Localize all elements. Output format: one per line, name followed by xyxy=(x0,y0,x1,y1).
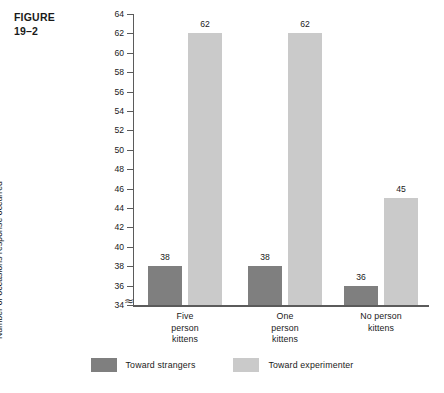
y-axis-title: Number of occasions response occurred xyxy=(0,160,4,360)
bar-value-label: 38 xyxy=(148,252,182,262)
legend-label: Toward strangers xyxy=(126,360,196,370)
x-category-label-line: person xyxy=(235,323,335,335)
bar xyxy=(344,286,378,305)
bar-value-label: 62 xyxy=(188,19,222,29)
x-category-label-line: One xyxy=(235,311,335,323)
y-tick-mark xyxy=(127,286,133,287)
y-tick-mark xyxy=(127,92,133,93)
y-tick-label: 52 xyxy=(114,125,124,135)
x-category-label: No personkittens xyxy=(331,311,431,334)
y-tick-label: 48 xyxy=(114,164,124,174)
x-category-label: Onepersonkittens xyxy=(235,311,335,346)
y-tick-mark xyxy=(127,130,133,131)
y-axis-tick-labels: 34363840424446485052545658606264 xyxy=(104,14,124,306)
bar xyxy=(288,33,322,305)
y-tick-label: 56 xyxy=(114,87,124,97)
y-tick-label: 50 xyxy=(114,145,124,155)
y-tick-label: 36 xyxy=(114,281,124,291)
y-tick-label: 62 xyxy=(114,28,124,38)
y-tick-label: 46 xyxy=(114,184,124,194)
bar xyxy=(384,198,418,305)
bar-value-label: 36 xyxy=(344,272,378,282)
y-tick-mark xyxy=(127,266,133,267)
legend-label: Toward experimenter xyxy=(268,360,353,370)
y-tick-mark xyxy=(127,14,133,15)
legend-swatch xyxy=(233,358,259,372)
legend-item: Toward strangers xyxy=(91,358,196,372)
y-tick-label: 40 xyxy=(114,242,124,252)
y-tick-label: 64 xyxy=(114,9,124,19)
y-tick-mark xyxy=(127,247,133,248)
y-tick-label: 54 xyxy=(114,106,124,116)
bar xyxy=(148,266,182,305)
y-tick-mark xyxy=(127,189,133,190)
bar-chart: Number of occasions response occurred 34… xyxy=(0,0,444,393)
x-axis-line xyxy=(133,305,429,307)
y-tick-mark xyxy=(127,111,133,112)
y-tick-mark xyxy=(127,53,133,54)
x-category-label-line: Five xyxy=(135,311,235,323)
y-tick-label: 60 xyxy=(114,48,124,58)
legend-item: Toward experimenter xyxy=(233,358,353,372)
y-tick-mark xyxy=(127,72,133,73)
y-tick-mark xyxy=(127,169,133,170)
x-category-label-line: kittens xyxy=(235,334,335,346)
y-tick-label: 44 xyxy=(114,203,124,213)
y-tick-mark xyxy=(127,305,133,306)
legend-swatch xyxy=(91,358,117,372)
y-tick-mark xyxy=(127,150,133,151)
bar xyxy=(188,33,222,305)
x-category-label-line: person xyxy=(135,323,235,335)
bar xyxy=(248,266,282,305)
y-tick-label: 34 xyxy=(114,300,124,310)
bar-value-label: 62 xyxy=(288,19,322,29)
plot-area: 386238623645 xyxy=(134,14,429,305)
x-category-label: Fivepersonkittens xyxy=(135,311,235,346)
y-tick-label: 38 xyxy=(114,261,124,271)
y-tick-mark xyxy=(127,227,133,228)
bar-value-label: 38 xyxy=(248,252,282,262)
y-tick-label: 42 xyxy=(114,222,124,232)
x-category-label-line: No person xyxy=(331,311,431,323)
bar-value-label: 45 xyxy=(384,184,418,194)
y-tick-label: 58 xyxy=(114,67,124,77)
x-category-label-line: kittens xyxy=(331,323,431,335)
x-category-label-line: kittens xyxy=(135,334,235,346)
y-tick-mark xyxy=(127,208,133,209)
chart-legend: Toward strangersToward experimenter xyxy=(0,358,444,372)
y-tick-mark xyxy=(127,33,133,34)
